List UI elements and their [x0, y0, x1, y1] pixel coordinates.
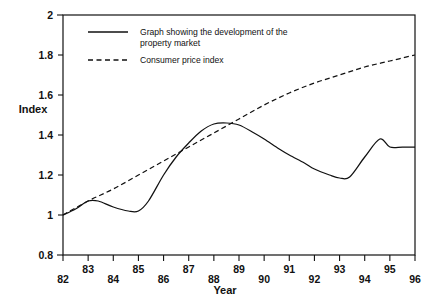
x-axis-title: Year — [213, 284, 237, 296]
y-tick-label: 0.8 — [38, 249, 53, 261]
x-tick-label: 93 — [334, 263, 346, 275]
x-tick-label: 82 — [57, 273, 69, 285]
chart-background — [0, 0, 435, 306]
y-tick-label: 2 — [47, 9, 53, 21]
chart-container: 0.811.21.41.61.82 8283848586878889909192… — [0, 0, 435, 306]
legend-label-property-market-line2: property market — [140, 38, 201, 48]
x-tick-label: 83 — [82, 263, 94, 275]
y-tick-label: 1.2 — [38, 169, 53, 181]
y-tick-label: 1.8 — [38, 49, 53, 61]
legend-label-consumer-price-index: Consumer price index — [140, 55, 224, 65]
x-tick-label: 90 — [258, 273, 270, 285]
x-tick-label: 87 — [183, 263, 195, 275]
y-tick-label: 1 — [47, 209, 53, 221]
y-tick-label: 1.4 — [38, 129, 53, 141]
x-tick-label: 91 — [283, 263, 295, 275]
y-axis-title: Index — [19, 103, 49, 115]
x-tick-label: 85 — [133, 263, 145, 275]
x-tick-label: 92 — [309, 273, 321, 285]
y-tick-label: 1.6 — [38, 89, 53, 101]
x-tick-label: 84 — [107, 273, 119, 285]
x-tick-label: 96 — [409, 273, 421, 285]
legend-label-property-market-line1: Graph showing the development of the — [140, 27, 288, 37]
x-tick-label: 89 — [233, 263, 245, 275]
x-tick-label: 95 — [384, 263, 396, 275]
x-tick-label: 86 — [158, 273, 170, 285]
x-tick-label: 94 — [359, 273, 371, 285]
line-chart: 0.811.21.41.61.82 8283848586878889909192… — [0, 0, 435, 306]
